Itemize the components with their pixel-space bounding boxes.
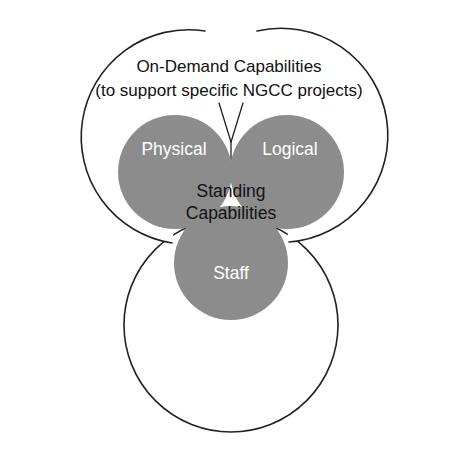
center-label-line-2: Capabilities (186, 203, 277, 223)
diagram-root: On-Demand Capabilities (to support speci… (0, 0, 458, 454)
center-label-line-1: Standing (196, 181, 265, 201)
title-leader-line-left (219, 103, 231, 142)
lobe-label-physical: Physical (141, 139, 206, 159)
lobe-label-logical: Logical (262, 139, 317, 159)
lobe-label-staff: Staff (213, 263, 249, 283)
title-line-2: (to support specific NGCC projects) (95, 81, 362, 100)
title-leader-line-right (231, 103, 243, 142)
title-line-1: On-Demand Capabilities (136, 57, 321, 76)
venn-diagram-canvas: On-Demand Capabilities (to support speci… (0, 0, 458, 454)
